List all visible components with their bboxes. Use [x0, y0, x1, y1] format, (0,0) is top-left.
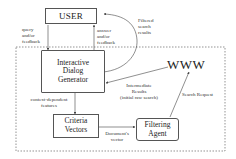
label-answer: answer and/or feedback	[97, 28, 115, 46]
intermediate-line2: Results	[132, 89, 147, 94]
answer-line3: feedback	[97, 40, 115, 45]
filtering-line2: Agent	[148, 130, 166, 139]
context-line2: features	[41, 103, 57, 108]
label-context: context-dependent features	[25, 97, 73, 109]
intermediate-line1: Intermediate	[126, 83, 151, 88]
context-line1: context-dependent	[31, 97, 68, 102]
answer-line1: answer	[97, 28, 111, 33]
query-line3: feedback	[22, 39, 40, 44]
search-request-text: Search Request	[182, 92, 213, 97]
query-line1: query	[22, 27, 33, 32]
filtered-line3: results	[138, 30, 151, 35]
label-intermediate: Intermediate Results (initial raw search…	[114, 83, 164, 101]
dialog-line3: Generator	[58, 76, 88, 85]
answer-line2: and/or	[97, 34, 110, 39]
doc-vector-line1: Document's	[105, 131, 129, 136]
label-filtered: Filtered search results	[138, 18, 154, 36]
intermediate-line3: (initial raw search)	[120, 95, 158, 100]
label-query: query and/or feedback	[22, 27, 40, 45]
criteria-line2: Vectors	[65, 126, 88, 135]
www-node: WWW	[167, 57, 205, 73]
doc-vector-line2: vector	[111, 137, 124, 142]
user-label: USER	[59, 11, 83, 21]
dialog-generator-node: Interactive Dialog Generator	[41, 50, 105, 93]
label-doc-vector: Document's vector	[101, 131, 133, 143]
filtered-line1: Filtered	[138, 18, 154, 23]
user-node: USER	[45, 8, 97, 24]
filtering-agent-node: Filtering Agent	[136, 118, 179, 141]
query-line2: and/or	[22, 33, 35, 38]
system-architecture-diagram: USER Interactive Dialog Generator Criter…	[0, 0, 236, 159]
criteria-vectors-node: Criteria Vectors	[53, 114, 99, 138]
label-search-request: Search Request	[182, 92, 213, 98]
filtered-line2: search	[138, 24, 151, 29]
